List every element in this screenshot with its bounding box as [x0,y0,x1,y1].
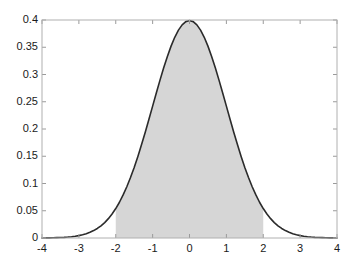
y-tick-label: 0.25 [17,96,38,107]
x-tick-label: -2 [96,243,136,254]
x-tick-label: 2 [243,243,283,254]
y-tick-label: 0.35 [17,41,38,52]
x-tick-label: 1 [206,243,246,254]
x-tick-label: -4 [22,243,62,254]
plot-area [42,20,337,238]
y-tick-label: 0.05 [17,205,38,216]
x-tick-label: -1 [133,243,173,254]
y-tick-label: 0.2 [23,123,38,134]
x-tick-label: 0 [170,243,210,254]
x-tick-label: -3 [59,243,99,254]
x-tick-label: 4 [317,243,356,254]
x-tick-label: 3 [280,243,320,254]
y-tick-label: 0.4 [23,14,38,25]
y-tick-label: 0.3 [23,69,38,80]
figure-canvas: 00.050.10.150.20.250.30.350.4 -4-3-2-101… [0,0,356,266]
y-tick-label: 0.15 [17,150,38,161]
y-tick-label: 0.1 [23,178,38,189]
normal-distribution-chart [0,0,356,266]
